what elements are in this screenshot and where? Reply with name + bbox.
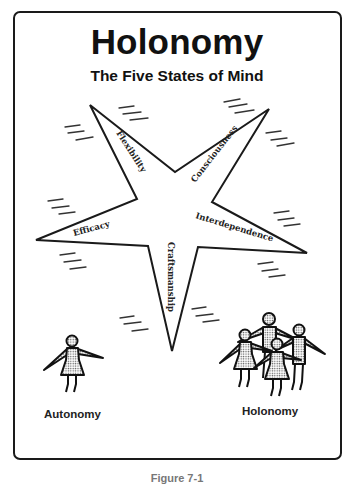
autonomy-figure [44, 336, 103, 393]
autonomy-label: Autonomy [44, 408, 101, 420]
figure-caption: Figure 7-1 [0, 472, 354, 484]
star-label-craftsmanship: Craftsmanship [166, 242, 176, 312]
holonomy-label: Holonomy [242, 405, 298, 417]
holonomy-group [220, 313, 325, 396]
